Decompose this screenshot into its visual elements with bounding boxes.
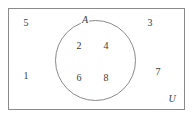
element-outside-a-5: 5 bbox=[24, 18, 29, 28]
set-diagram-canvas: A 2 4 6 8 5 3 1 7 U bbox=[0, 0, 193, 119]
set-a-circle bbox=[55, 20, 136, 101]
set-a-label: A bbox=[81, 15, 89, 25]
element-outside-a-7: 7 bbox=[156, 67, 161, 77]
element-inside-a-4: 4 bbox=[104, 41, 109, 51]
element-inside-a-8: 8 bbox=[104, 73, 109, 83]
element-outside-a-1: 1 bbox=[24, 71, 29, 81]
element-inside-a-2: 2 bbox=[77, 41, 82, 51]
universal-set-label: U bbox=[168, 94, 175, 104]
element-inside-a-6: 6 bbox=[77, 73, 82, 83]
element-outside-a-3: 3 bbox=[148, 18, 153, 28]
